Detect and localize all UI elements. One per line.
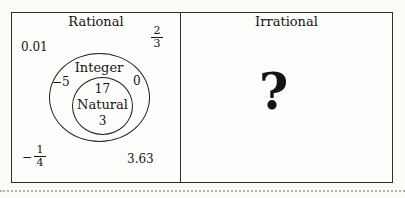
bottom-dotted-rule [0,190,405,192]
value-17: 17 [72,83,133,95]
value-3: 3 [72,115,133,127]
value-0: 0 [133,75,141,87]
value-0-01: 0.01 [21,41,48,53]
rational-cell: Rational 0.01 2 3 Integer −5 0 17 Natura… [12,13,181,182]
fraction-two-thirds-denominator: 3 [152,38,163,50]
value-3-63: 3.63 [127,153,154,165]
fraction-neg-one-fourth-denominator: 4 [35,157,46,169]
fraction-two-thirds-numerator: 2 [151,25,163,38]
integer-label: Integer [59,61,139,75]
fraction-neg-one-fourth: − 1 4 [22,144,46,170]
fraction-neg-one-fourth-sign: − [22,151,32,163]
number-classification-table: Rational 0.01 2 3 Integer −5 0 17 Natura… [11,12,393,183]
value-neg-5: −5 [52,76,70,88]
number-sets-diagram: Rational 0.01 2 3 Integer −5 0 17 Natura… [0,0,405,198]
fraction-two-thirds: 2 3 [151,25,163,51]
fraction-neg-one-fourth-numerator: 1 [34,144,46,157]
question-mark: ? [259,67,288,117]
irrational-cell: Irrational ? [181,13,392,182]
irrational-title: Irrational [181,14,392,30]
natural-label: Natural [72,98,133,112]
